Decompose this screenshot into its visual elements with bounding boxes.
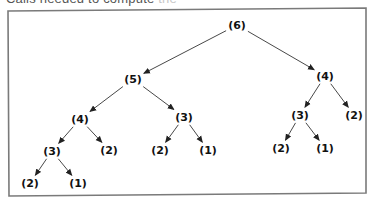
tree-node: (2) <box>100 144 118 157</box>
tree-node: (3) <box>175 111 193 124</box>
tree-node: (5) <box>124 73 142 86</box>
diagram-frame <box>8 8 366 196</box>
tree-node: (4) <box>316 70 334 83</box>
tree-node: (2) <box>151 144 169 157</box>
tree-node: (2) <box>21 177 39 190</box>
tree-node: (4) <box>71 113 89 126</box>
call-tree-diagram: (6)(5)(4)(4)(3)(3)(2)(3)(2)(2)(1)(2)(1)(… <box>0 0 375 200</box>
tree-node: (3) <box>291 109 309 122</box>
tree-node: (2) <box>345 109 363 122</box>
tree-node: (2) <box>272 142 290 155</box>
tree-node: (1) <box>316 142 334 155</box>
tree-node: (6) <box>228 19 246 32</box>
tree-node: (3) <box>43 145 61 158</box>
tree-node: (1) <box>199 144 217 157</box>
tree-node: (1) <box>69 177 87 190</box>
